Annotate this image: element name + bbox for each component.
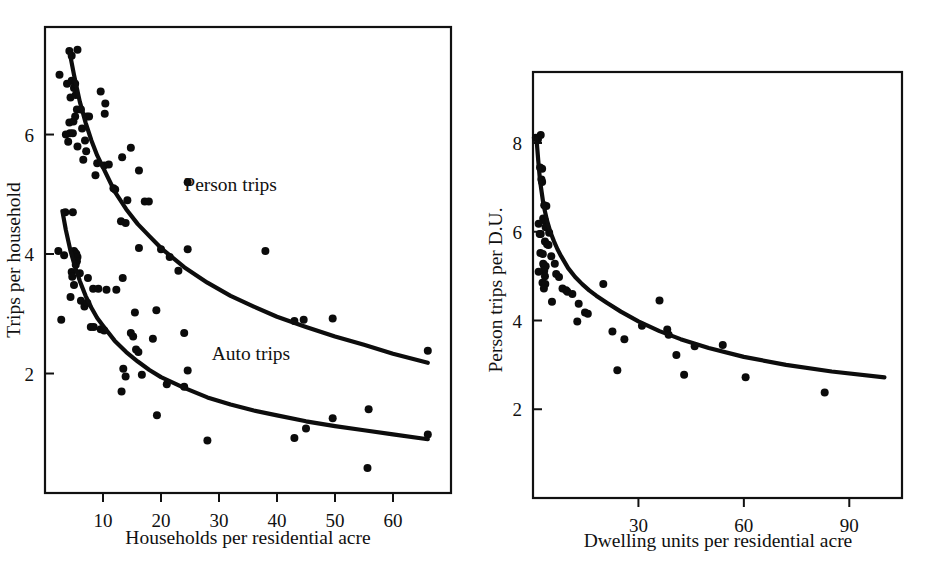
data-point — [73, 142, 81, 150]
data-point — [135, 244, 143, 252]
right-y-axis-title: Person trips per D.U. — [485, 207, 506, 372]
data-point — [261, 247, 269, 255]
data-point — [135, 166, 143, 174]
data-point — [71, 113, 79, 121]
data-point — [540, 285, 548, 293]
data-point — [101, 99, 109, 107]
y-tick-label: 4 — [513, 311, 523, 332]
y-tick-label: 6 — [25, 125, 35, 146]
data-point — [91, 171, 99, 179]
left-x-axis-title: Households per residential acre — [125, 527, 370, 548]
data-point — [131, 309, 139, 317]
x-tick-label: 60 — [384, 510, 403, 531]
data-point — [180, 329, 188, 337]
data-point — [138, 371, 146, 379]
data-point — [134, 348, 142, 356]
data-point — [129, 332, 137, 340]
data-point — [79, 156, 87, 164]
data-point — [122, 219, 130, 227]
series-annotation: Auto trips — [212, 343, 291, 364]
data-point — [544, 241, 552, 249]
right-x-axis-title: Dwelling units per residential acre — [584, 530, 853, 551]
data-point — [548, 298, 556, 306]
data-point — [613, 366, 621, 374]
data-point — [153, 411, 161, 419]
data-point — [203, 436, 211, 444]
data-point — [174, 267, 182, 275]
data-point — [555, 273, 563, 281]
data-point — [551, 260, 559, 268]
data-point — [537, 230, 545, 238]
data-point — [64, 138, 72, 146]
y-tick-label: 8 — [513, 133, 523, 154]
data-point — [575, 300, 583, 308]
data-point — [122, 373, 130, 381]
data-point — [300, 316, 308, 324]
data-point — [101, 110, 109, 118]
data-point — [149, 335, 157, 343]
y-tick-label: 2 — [513, 399, 523, 420]
data-point — [620, 335, 628, 343]
data-point — [56, 71, 64, 79]
data-point — [290, 434, 298, 442]
data-point — [672, 351, 680, 359]
data-point — [424, 347, 432, 355]
data-point — [119, 365, 127, 373]
data-point — [719, 341, 727, 349]
data-point — [184, 245, 192, 253]
data-point — [69, 129, 77, 137]
data-point — [302, 424, 310, 432]
data-point — [69, 208, 77, 216]
data-point — [329, 315, 337, 323]
data-point — [539, 250, 547, 258]
data-point — [82, 147, 90, 155]
data-point — [84, 274, 92, 282]
data-point — [584, 310, 592, 318]
data-point — [742, 373, 750, 381]
data-point — [329, 414, 337, 422]
data-point — [57, 316, 65, 324]
data-point — [70, 281, 78, 289]
data-point — [119, 274, 127, 282]
data-point — [118, 387, 126, 395]
data-point — [97, 88, 105, 96]
data-point — [105, 160, 113, 168]
data-point — [821, 388, 829, 396]
data-point — [656, 297, 664, 305]
y-tick-label: 2 — [25, 364, 35, 385]
data-point — [152, 306, 160, 314]
data-point — [94, 285, 102, 293]
data-point — [363, 464, 371, 472]
data-point — [112, 286, 120, 294]
left-y-axis-title: Trips per household — [3, 182, 24, 338]
data-point — [73, 46, 81, 54]
data-point — [680, 371, 688, 379]
data-point — [90, 323, 98, 331]
two-panel-scatter-figure: 102030405060 246 Person tripsAuto trips … — [0, 0, 936, 581]
data-point — [60, 251, 68, 259]
data-point — [145, 197, 153, 205]
data-point — [573, 317, 581, 325]
x-tick-label: 10 — [94, 510, 113, 531]
data-point — [535, 220, 543, 228]
data-point — [547, 252, 555, 260]
data-point — [127, 144, 135, 152]
y-tick-label: 4 — [25, 244, 35, 265]
data-point — [365, 405, 373, 413]
data-point — [568, 290, 576, 298]
data-point — [81, 137, 89, 145]
data-point — [184, 367, 192, 375]
y-tick-label: 6 — [513, 222, 523, 243]
data-point — [67, 293, 75, 301]
data-point — [599, 280, 607, 288]
series-annotation: Person trips — [184, 174, 277, 195]
data-point — [68, 273, 76, 281]
data-point — [118, 153, 126, 161]
data-point — [102, 286, 110, 294]
data-point — [608, 328, 616, 336]
